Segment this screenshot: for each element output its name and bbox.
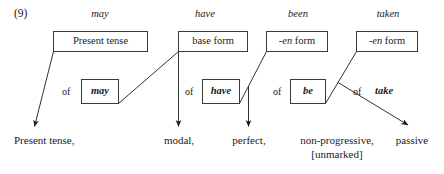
- gloss-line-2: [unmarked]: [311, 148, 362, 160]
- verb-box-be: be: [290, 79, 326, 104]
- verb-label: may: [91, 86, 109, 97]
- category-box-present-tense: Present tense: [53, 31, 148, 52]
- category-box-en-form-passive: -en form: [356, 31, 418, 52]
- category-label: Present tense: [73, 36, 128, 47]
- of-label-have: of: [185, 87, 193, 97]
- arrow-passive: [338, 83, 408, 126]
- category-box-base-form: base form: [178, 31, 248, 52]
- verb-label: be: [303, 86, 313, 97]
- link-be-to-en-form: [326, 52, 357, 104]
- arrow-present-tense: [35, 52, 54, 127]
- category-box-en-form-perfect: -en form: [266, 31, 328, 52]
- of-label-be: of: [273, 87, 281, 97]
- gloss-perfect: perfect,: [215, 134, 283, 148]
- gloss-modal: modal,: [140, 134, 218, 148]
- surface-word-may: may: [60, 9, 140, 20]
- link-may-to-base-form: [119, 52, 179, 104]
- verb-box-have: have: [202, 79, 240, 104]
- gloss-passive: passive: [384, 134, 440, 148]
- surface-word-have: have: [165, 9, 245, 20]
- of-label-take: of: [353, 87, 361, 97]
- example-figure: (9) may have been taken Present tense ba…: [0, 0, 444, 174]
- category-prefix: -en: [279, 36, 292, 47]
- gloss-non-progressive: non-progressive, [unmarked]: [286, 134, 388, 162]
- verb-box-may: may: [81, 79, 119, 104]
- surface-word-taken: taken: [348, 9, 428, 20]
- category-prefix: -en: [369, 36, 382, 47]
- gloss-present-tense: Present tense,: [0, 134, 150, 148]
- example-number: (9): [14, 8, 27, 20]
- link-have-to-en-form: [240, 52, 267, 104]
- gloss-line-1: non-progressive,: [300, 134, 374, 146]
- verb-label-take: take: [375, 86, 393, 97]
- verb-label: have: [211, 86, 231, 97]
- of-label-may: of: [62, 87, 70, 97]
- surface-word-been: been: [258, 9, 338, 20]
- category-label: form: [295, 36, 315, 47]
- category-label: form: [385, 36, 405, 47]
- category-label: base form: [192, 36, 234, 47]
